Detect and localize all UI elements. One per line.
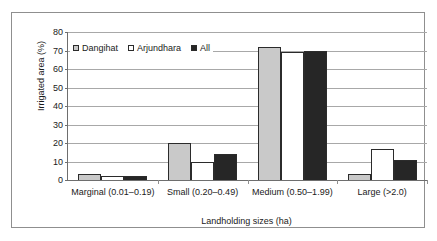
bar-group-bars [158,32,248,180]
x-axis-title: Landholding sizes (ha) [67,216,426,226]
bar [371,149,394,180]
x-axis-separator [427,180,428,184]
y-tick-label: 60 [53,64,63,74]
bar [191,162,214,181]
bar [304,51,327,181]
x-category-label: Marginal (0.01–0.19) [65,187,161,198]
y-tick-mark [65,180,68,181]
bar [101,176,124,180]
legend-label: All [200,43,210,53]
bar-group: Marginal (0.01–0.19) [68,32,158,180]
legend-swatch-icon [73,45,79,51]
legend-entry: All [191,43,210,53]
bar-group-bars [337,32,427,180]
bar [348,174,371,180]
y-tick-label: 70 [53,46,63,56]
y-tick-label: 30 [53,120,63,130]
bar-group: Large (>2.0) [337,32,427,180]
x-category-label: Small (0.20–0.49) [155,187,251,198]
y-tick-label: 50 [53,83,63,93]
bar [124,176,147,180]
legend-label: Arjundhara [137,43,181,53]
x-axis-separator [248,180,249,184]
chart-legend: DangihatArjundharaAll [70,42,213,54]
y-tick-label: 10 [53,157,63,167]
legend-label: Dangihat [82,43,118,53]
x-category-label: Medium (0.50–1.99) [244,187,340,198]
bar [214,154,237,180]
bar-group-bars [248,32,338,180]
x-category-label: Large (>2.0) [334,187,430,198]
chart-frame: Irrigated area (%) 80706050403020100 Mar… [11,12,425,228]
legend-entry: Dangihat [73,43,118,53]
legend-entry: Arjundhara [128,43,181,53]
y-tick-label: 80 [53,27,63,37]
x-axis-separator [337,180,338,184]
y-tick-label: 40 [53,101,63,111]
legend-swatch-icon [191,45,197,51]
bar-group: Small (0.20–0.49) [158,32,248,180]
bar [168,143,191,180]
y-tick-label: 20 [53,138,63,148]
y-axis-title: Irrigated area (%) [36,1,46,151]
bar [258,47,281,180]
plot-area: 80706050403020100 Marginal (0.01–0.19)Sm… [67,32,427,181]
y-tick-label: 0 [58,175,63,185]
bar [394,160,417,180]
bar-group: Medium (0.50–1.99) [248,32,338,180]
chart-figure: Irrigated area (%) 80706050403020100 Mar… [0,0,437,241]
bar-group-bars [68,32,158,180]
legend-swatch-icon [128,45,134,51]
x-axis-separator [158,180,159,184]
bar [281,52,304,180]
bar [78,174,101,180]
